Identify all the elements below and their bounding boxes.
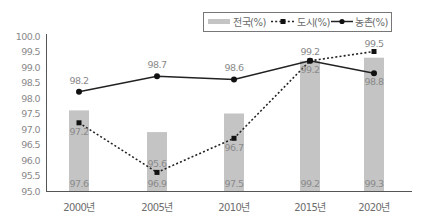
y-tick-label: 99.5 <box>21 46 40 57</box>
square-marker-icon <box>155 170 160 175</box>
y-tick-label: 97.0 <box>21 124 40 135</box>
circle-marker-icon <box>76 89 82 95</box>
data-label: 99.2 <box>301 46 320 57</box>
legend-label-rural: 농촌(%) <box>355 17 388 28</box>
legend-bar-swatch-icon <box>208 19 230 24</box>
bars-national <box>69 58 384 191</box>
circle-marker-icon <box>231 76 237 82</box>
x-tick-label: 2000년 <box>63 202 95 213</box>
y-tick-label: 98.0 <box>21 93 40 104</box>
legend: 전국(%) 도시(%) 농촌(%) <box>204 13 392 32</box>
legend-label-national: 전국(%) <box>233 17 266 28</box>
y-tick-label: 96.5 <box>21 139 40 150</box>
x-tick-label: 2020년 <box>358 202 390 213</box>
data-label: 98.2 <box>70 75 89 86</box>
data-label: 99.2 <box>301 64 320 75</box>
data-label: 96.7 <box>225 142 244 153</box>
data-label: 97.2 <box>70 126 89 137</box>
data-label: 98.8 <box>365 76 384 87</box>
square-marker-icon <box>372 49 377 54</box>
data-label: 98.6 <box>225 62 244 73</box>
data-label: 96.9 <box>148 178 167 189</box>
square-marker-icon <box>232 136 237 141</box>
y-tick-label: 96.0 <box>21 155 40 166</box>
x-tick-label: 2010년 <box>218 202 250 213</box>
y-tick-label: 95.0 <box>21 186 40 197</box>
data-label: 98.7 <box>148 59 167 70</box>
chart: 100.099.599.098.598.097.597.096.596.095.… <box>0 0 428 224</box>
y-tick-label: 95.5 <box>21 170 40 181</box>
legend-square-marker-icon <box>281 19 286 24</box>
x-tick-label: 2005년 <box>141 202 173 213</box>
x-axis-labels: 2000년2005년2010년2015년2020년 <box>63 202 390 213</box>
y-tick-label: 97.5 <box>21 108 40 119</box>
data-label: 99.3 <box>365 178 384 189</box>
data-label: 99.2 <box>301 178 320 189</box>
y-tick-label: 100.0 <box>16 31 41 42</box>
y-tick-label: 98.5 <box>21 77 40 88</box>
circle-marker-icon <box>154 73 160 79</box>
data-label: 95.6 <box>148 158 167 169</box>
bar <box>300 61 320 191</box>
legend-circle-marker-icon <box>339 19 344 24</box>
legend-label-urban: 도시(%) <box>297 17 330 28</box>
x-tick-label: 2015년 <box>294 202 326 213</box>
y-tick-label: 99.0 <box>21 62 40 73</box>
y-axis-ticks: 100.099.599.098.598.097.597.096.596.095.… <box>16 31 41 197</box>
data-label: 97.6 <box>70 178 89 189</box>
square-marker-icon <box>77 120 82 125</box>
data-label: 97.5 <box>225 178 244 189</box>
data-label: 99.5 <box>365 38 384 49</box>
